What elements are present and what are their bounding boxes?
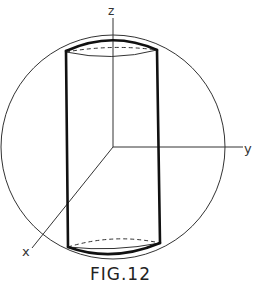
cylinder-left-side <box>66 51 68 247</box>
x-axis-label: x <box>22 244 30 259</box>
cylinder-right-side <box>157 50 160 243</box>
cylinder-top-back-edge <box>66 40 157 51</box>
figure-caption: FIG.12 <box>90 264 151 284</box>
cylinder-top-hidden-edge <box>66 47 157 52</box>
x-axis <box>32 147 113 248</box>
y-axis-label: y <box>244 141 252 156</box>
z-axis-label: z <box>108 4 114 18</box>
cylinder-top-front-edge <box>66 50 157 57</box>
figure-diagram: z y x FIG.12 <box>0 0 257 284</box>
